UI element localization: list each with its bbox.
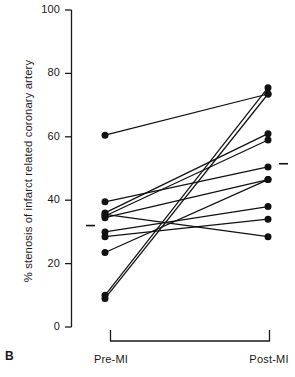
y-tick-label-20: 20 — [34, 258, 60, 269]
data-point — [265, 233, 272, 240]
data-point — [102, 295, 109, 302]
data-point — [102, 132, 109, 139]
data-point — [265, 176, 272, 183]
data-point — [265, 84, 272, 91]
data-point — [265, 163, 272, 170]
y-tick-label-0: 0 — [34, 321, 60, 332]
series-data-points — [102, 84, 272, 302]
data-point — [265, 130, 272, 137]
y-axis — [65, 10, 72, 327]
y-tick-label-100: 100 — [34, 4, 60, 15]
data-point — [265, 203, 272, 210]
data-point — [265, 91, 272, 98]
data-point — [265, 136, 272, 143]
data-point — [102, 198, 109, 205]
series-line — [105, 88, 268, 296]
panel-label: B — [5, 350, 14, 363]
figure-panel-b: 100 80 60 40 20 0 % stenosis of infarct … — [0, 0, 295, 377]
y-axis-title: % stenosis of infarct related coronary a… — [22, 21, 34, 321]
series-connector-lines — [105, 88, 268, 299]
series-line — [105, 180, 268, 218]
data-point — [265, 216, 272, 223]
data-point — [102, 233, 109, 240]
x-category-label-post-mi: Post-MI — [236, 353, 295, 365]
x-category-label-pre-mi: Pre-MI — [78, 353, 144, 365]
y-tick-label-80: 80 — [34, 67, 60, 78]
series-line — [105, 134, 268, 213]
data-point — [102, 249, 109, 256]
x-axis — [110, 330, 270, 341]
y-tick-label-40: 40 — [34, 194, 60, 205]
series-line — [105, 140, 268, 216]
y-tick-label-60: 60 — [34, 131, 60, 142]
data-point — [102, 214, 109, 221]
series-line — [105, 214, 268, 236]
series-line — [105, 94, 268, 135]
